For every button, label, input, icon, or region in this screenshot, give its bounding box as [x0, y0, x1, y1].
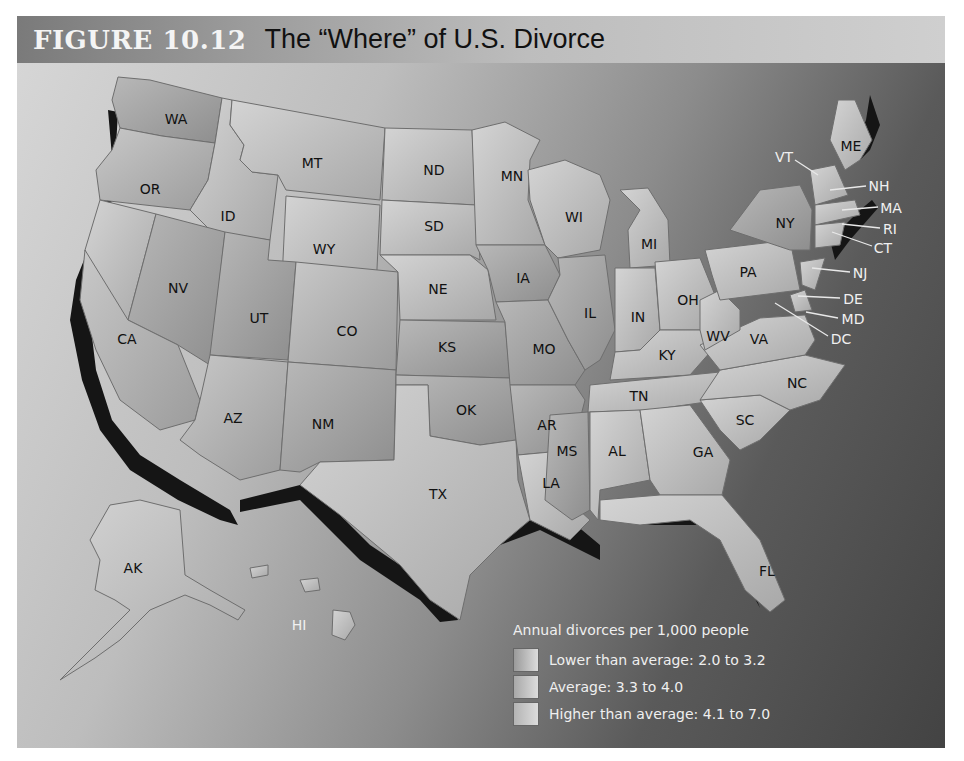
- legend-label-higher: Higher than average: 4.1 to 7.0: [549, 706, 770, 722]
- state-label-wa: WA: [165, 111, 188, 127]
- state-label-id: ID: [221, 208, 236, 224]
- state-label-ky: KY: [658, 347, 675, 363]
- state-label-mi: MI: [641, 236, 657, 252]
- state-label-oh: OH: [677, 292, 699, 308]
- legend-label-lower: Lower than average: 2.0 to 3.2: [549, 652, 766, 668]
- states-group: [60, 77, 872, 680]
- callout-label-md: MD: [842, 311, 865, 327]
- legend-item-lower: Lower than average: 2.0 to 3.2: [513, 646, 770, 673]
- state-label-la: LA: [542, 475, 560, 491]
- state-label-wi: WI: [565, 209, 583, 225]
- state-label-ms: MS: [557, 443, 578, 459]
- us-map: [0, 0, 964, 761]
- legend: Annual divorces per 1,000 people Lower t…: [513, 622, 770, 727]
- state-label-co: CO: [337, 323, 358, 339]
- state-label-ar: AR: [537, 417, 556, 433]
- state-label-wy: WY: [313, 241, 335, 257]
- state-label-ny: NY: [775, 215, 794, 231]
- state-label-or: OR: [140, 181, 161, 197]
- state-label-nc: NC: [787, 375, 807, 391]
- state-label-ks: KS: [438, 339, 456, 355]
- callout-label-ma: MA: [880, 200, 902, 216]
- legend-title: Annual divorces per 1,000 people: [513, 622, 770, 638]
- state-label-ga: GA: [693, 444, 713, 460]
- legend-swatch-lower: [513, 648, 539, 672]
- state-label-mo: MO: [532, 341, 555, 357]
- state-label-wv: WV: [706, 328, 729, 344]
- state-label-ne: NE: [428, 281, 447, 297]
- legend-item-average: Average: 3.3 to 4.0: [513, 673, 770, 700]
- state-label-il: IL: [584, 305, 596, 321]
- legend-item-higher: Higher than average: 4.1 to 7.0: [513, 700, 770, 727]
- state-label-nv: NV: [168, 280, 188, 296]
- legend-swatch-average: [513, 675, 539, 699]
- state-label-pa: PA: [739, 264, 756, 280]
- state-label-tn: TN: [629, 388, 648, 404]
- state-label-ak: AK: [124, 560, 143, 576]
- state-label-az: AZ: [223, 410, 242, 426]
- state-label-mt: MT: [302, 155, 323, 171]
- state-label-tx: TX: [429, 486, 447, 502]
- state-label-sd: SD: [424, 218, 444, 234]
- callout-label-vt: VT: [775, 149, 793, 165]
- callout-label-nh: NH: [869, 178, 890, 194]
- state-label-fl: FL: [759, 563, 775, 579]
- state-label-me: ME: [841, 138, 862, 154]
- state-label-ut: UT: [250, 310, 269, 326]
- callout-label-dc: DC: [831, 331, 852, 347]
- state-label-ca: CA: [117, 331, 136, 347]
- legend-swatch-higher: [513, 702, 539, 726]
- state-label-ok: OK: [456, 402, 476, 418]
- callout-label-ct: CT: [874, 240, 892, 256]
- state-label-in: IN: [631, 309, 646, 325]
- callout-label-de: DE: [843, 291, 863, 307]
- state-label-al: AL: [608, 443, 625, 459]
- state-label-hi: HI: [292, 617, 307, 633]
- state-label-nm: NM: [312, 416, 335, 432]
- state-label-ia: IA: [516, 270, 530, 286]
- legend-label-average: Average: 3.3 to 4.0: [549, 679, 683, 695]
- callout-label-nj: NJ: [853, 265, 868, 281]
- state-label-va: VA: [750, 331, 768, 347]
- state-label-sc: SC: [736, 412, 755, 428]
- state-label-mn: MN: [501, 168, 524, 184]
- state-label-nd: ND: [423, 162, 444, 178]
- callout-label-ri: RI: [883, 221, 897, 237]
